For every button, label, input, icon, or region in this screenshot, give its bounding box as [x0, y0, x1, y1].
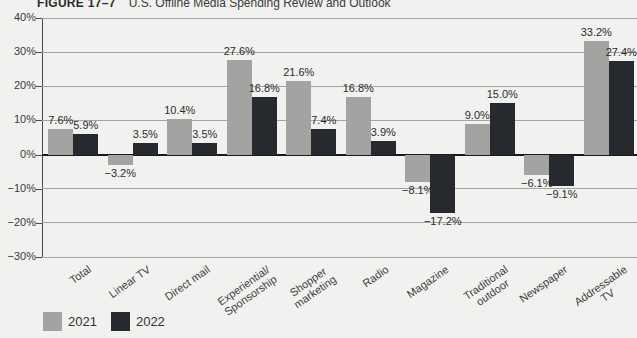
x-axis-label: Radio [360, 263, 391, 290]
y-axis-tick [36, 86, 42, 87]
bar-2022-3 [252, 97, 277, 154]
gridline [42, 52, 637, 53]
value-label: −17.2% [411, 215, 475, 227]
legend-swatch-2022 [111, 312, 130, 331]
value-label: −3.2% [88, 167, 152, 179]
bar-2022-6 [430, 155, 455, 214]
y-axis-tick [36, 155, 42, 156]
x-axis-label: Traditional outdoor [461, 263, 517, 312]
x-axis-label: Experiential/ Sponsorship [215, 263, 279, 318]
legend-item-2021: 2021 [43, 312, 97, 331]
y-axis-tick-label: 30% [0, 45, 36, 57]
bar-2021-7 [465, 124, 490, 155]
value-label: 15.0% [470, 88, 534, 100]
figure-caption: U.S. Offline Media Spending Review and O… [129, 0, 391, 10]
figure-title: FIGURE 17–7U.S. Offline Media Spending R… [37, 0, 391, 10]
y-axis-tick-label: −20% [0, 216, 36, 228]
bar-2021-1 [108, 155, 133, 166]
y-axis-tick [36, 189, 42, 190]
bar-2022-0 [73, 134, 98, 154]
x-axis-label: Direct mail [163, 263, 213, 303]
y-axis-tick-label: 20% [0, 79, 36, 91]
bar-2022-9 [609, 61, 634, 155]
bar-2022-8 [549, 155, 574, 186]
y-axis-tick [36, 223, 42, 224]
y-axis-tick [36, 120, 42, 121]
value-label: 27.6% [207, 45, 271, 57]
y-axis-tick [36, 257, 42, 258]
legend-item-2022: 2022 [111, 312, 165, 331]
bar-2022-7 [490, 103, 515, 154]
bar-2021-6 [405, 155, 430, 183]
bar-2021-8 [524, 155, 549, 176]
value-label: 3.9% [351, 126, 415, 138]
bar-2021-0 [48, 129, 73, 155]
y-axis-tick-label: 10% [0, 113, 36, 125]
bar-2022-1 [133, 143, 158, 155]
y-axis-tick [36, 18, 42, 19]
figure-label: FIGURE 17–7 [37, 0, 116, 10]
bar-2021-9 [584, 41, 609, 154]
plot-area: 7.6%5.9%−3.2%3.5%10.4%3.5%27.6%16.8%21.6… [42, 18, 637, 257]
gridline [42, 222, 637, 223]
value-label: 27.4% [589, 46, 637, 58]
legend-label-2021: 2021 [68, 314, 97, 329]
legend-label-2022: 2022 [136, 314, 165, 329]
value-label: 10.4% [148, 104, 212, 116]
y-axis-tick-label: −30% [0, 250, 36, 262]
x-axis-label: Linear TV [107, 263, 153, 300]
value-label: 5.9% [54, 119, 118, 131]
x-axis-label: Addressable TV [572, 263, 636, 318]
legend: 20212022 [43, 312, 165, 331]
x-axis-label: Newspaper [517, 263, 570, 305]
x-axis-label: Shopper marketing [285, 263, 339, 311]
bar-2022-2 [192, 143, 217, 155]
value-label: 16.8% [326, 82, 390, 94]
value-label: −9.1% [530, 188, 594, 200]
value-label: 33.2% [564, 26, 628, 38]
bar-2022-4 [311, 129, 336, 154]
y-axis-tick [36, 52, 42, 53]
legend-swatch-2021 [43, 312, 62, 331]
x-axis-label: Magazine [404, 263, 450, 300]
bar-2022-5 [371, 141, 396, 154]
value-label: 21.6% [267, 66, 331, 78]
gridline [42, 257, 637, 258]
x-axis-label: Total [67, 263, 93, 286]
y-axis-tick-label: −10% [0, 182, 36, 194]
gridline [42, 18, 637, 19]
y-axis-tick-label: 40% [0, 11, 36, 23]
bar-2021-3 [227, 60, 252, 154]
y-axis-tick-label: 0% [0, 148, 36, 160]
